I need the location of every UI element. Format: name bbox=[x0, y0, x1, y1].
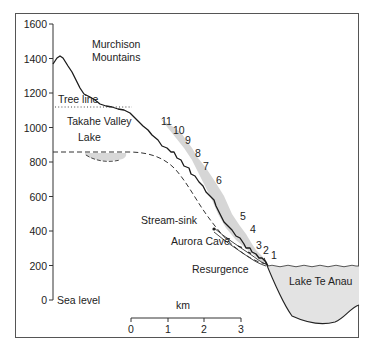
scale-bar: km 0 1 2 3 bbox=[128, 299, 244, 335]
stream-sink-marker bbox=[212, 227, 215, 230]
y-tick-label: 400 bbox=[29, 225, 47, 237]
step-number: 6 bbox=[216, 174, 222, 186]
step-number: 7 bbox=[203, 160, 209, 172]
terrain-profile-line bbox=[53, 56, 268, 266]
scale-bar-unit: km bbox=[176, 299, 190, 311]
step-number: 11 bbox=[161, 115, 172, 127]
step-number: 1 bbox=[271, 249, 277, 261]
y-tick-label: 0 bbox=[41, 294, 47, 306]
step-number: 8 bbox=[195, 147, 201, 159]
y-tick-label: 1200 bbox=[24, 87, 48, 99]
aurora-cave-label: Aurora Cave bbox=[171, 235, 230, 247]
murchison-mountains-label-line2: Mountains bbox=[92, 51, 140, 63]
y-tick-label: 1400 bbox=[24, 53, 48, 65]
lake-te-anau-label: Lake Te Anau bbox=[289, 275, 353, 287]
diagram-canvas: 1600 1400 1200 1000 800 600 400 200 0 Se… bbox=[0, 0, 371, 351]
scale-tick-label: 1 bbox=[165, 323, 171, 335]
step-number: 9 bbox=[185, 134, 191, 146]
y-tick-label: 1000 bbox=[24, 122, 48, 134]
step-number: 4 bbox=[250, 223, 256, 235]
y-axis-ticks bbox=[49, 24, 53, 300]
step-number: 5 bbox=[240, 210, 246, 222]
scale-tick-label: 0 bbox=[128, 323, 134, 335]
y-tick-label: 200 bbox=[29, 260, 47, 272]
y-tick-label: 1600 bbox=[24, 18, 48, 30]
tree-line-label: Tree line bbox=[58, 93, 99, 105]
y-axis-labels: 1600 1400 1200 1000 800 600 400 200 0 Se… bbox=[24, 18, 101, 306]
cross-section-diagram: 1600 1400 1200 1000 800 600 400 200 0 Se… bbox=[0, 0, 371, 351]
scale-tick-label: 2 bbox=[201, 323, 207, 335]
takahe-valley-label: Takahe Valley bbox=[67, 115, 132, 127]
murchison-mountains-label-line1: Murchison bbox=[92, 38, 141, 50]
takahe-lake-water bbox=[85, 153, 126, 161]
resurgence-label: Resurgence bbox=[192, 263, 249, 275]
sea-level-label: Sea level bbox=[57, 294, 100, 306]
scale-tick-label: 3 bbox=[238, 323, 244, 335]
step-number: 2 bbox=[263, 244, 269, 256]
lake-label: Lake bbox=[78, 131, 101, 143]
y-tick-label: 800 bbox=[29, 156, 47, 168]
y-tick-label: 600 bbox=[29, 191, 47, 203]
stream-sink-label: Stream-sink bbox=[141, 214, 198, 226]
step-number: 10 bbox=[173, 124, 185, 136]
step-number: 3 bbox=[256, 239, 262, 251]
